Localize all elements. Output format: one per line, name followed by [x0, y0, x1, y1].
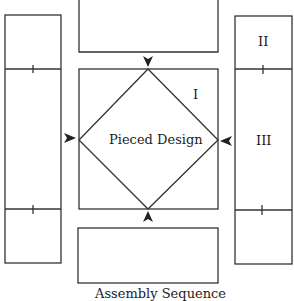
section-label-ii: II — [258, 34, 268, 49]
arrow-left-icon — [220, 136, 232, 146]
center-label: Pieced Design — [109, 132, 203, 147]
section-label-i: I — [193, 87, 198, 102]
arrow-up-icon — [143, 211, 153, 222]
left-strip — [5, 15, 61, 263]
top-rectangle — [79, 0, 218, 52]
diagram-caption: Assembly Sequence — [95, 286, 226, 301]
arrow-down-icon — [143, 56, 153, 67]
bottom-rectangle — [78, 228, 218, 283]
arrow-right-icon — [64, 133, 76, 143]
section-label-iii: III — [256, 133, 271, 148]
